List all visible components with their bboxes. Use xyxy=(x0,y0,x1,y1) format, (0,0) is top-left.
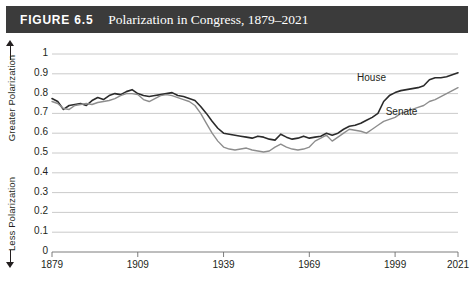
gridlines-group xyxy=(52,54,458,232)
x-axis-tick-label: 1939 xyxy=(204,259,244,270)
greater-polarization-label: Greater Polarization xyxy=(6,55,17,141)
y-axis-tick-label: 0.1 xyxy=(24,225,48,236)
series-line-senate xyxy=(52,88,458,152)
series-label-house: House xyxy=(357,72,386,83)
y-axis-tick-label: 0.6 xyxy=(24,126,48,137)
y-axis-tick-label: 0.5 xyxy=(24,146,48,157)
y-axis-tick-label: 0.7 xyxy=(24,106,48,117)
y-axis-tick-label: 1 xyxy=(24,47,48,58)
x-axis-tick-label: 1909 xyxy=(118,259,158,270)
y-axis-title-group: Greater Polarization Less Polarization xyxy=(0,42,22,268)
y-axis-tick-label: 0.3 xyxy=(24,186,48,197)
chart-plot-area: 00.10.20.30.40.50.60.70.80.91 1879190919… xyxy=(24,42,468,272)
y-axis-tick-label: 0.9 xyxy=(24,67,48,78)
less-polarization-label: Less Polarization xyxy=(6,177,17,251)
chart-svg xyxy=(24,42,468,272)
x-axis-tick-label: 1969 xyxy=(289,259,329,270)
y-axis-tick-label: 0.4 xyxy=(24,166,48,177)
series-label-senate: Senate xyxy=(386,106,418,117)
y-axis-tick-label: 0.8 xyxy=(24,87,48,98)
x-axis-tick-label: 2021 xyxy=(438,259,474,270)
x-axis-ticks xyxy=(52,252,458,257)
figure-title-label: Polarization in Congress, 1879–2021 xyxy=(108,12,308,28)
y-axis-tick-label: 0.2 xyxy=(24,205,48,216)
y-axis-down-arrow-icon xyxy=(6,262,14,268)
x-axis-tick-label: 1879 xyxy=(32,259,72,270)
figure-container: FIGURE 6.5 Polarization in Congress, 187… xyxy=(0,0,474,286)
y-axis-up-arrow-icon xyxy=(6,40,14,46)
x-axis-tick-label: 1999 xyxy=(375,259,415,270)
y-axis-tick-label: 0 xyxy=(24,245,48,256)
figure-header-bar: FIGURE 6.5 Polarization in Congress, 187… xyxy=(6,6,468,33)
figure-number-label: FIGURE 6.5 xyxy=(20,13,93,27)
